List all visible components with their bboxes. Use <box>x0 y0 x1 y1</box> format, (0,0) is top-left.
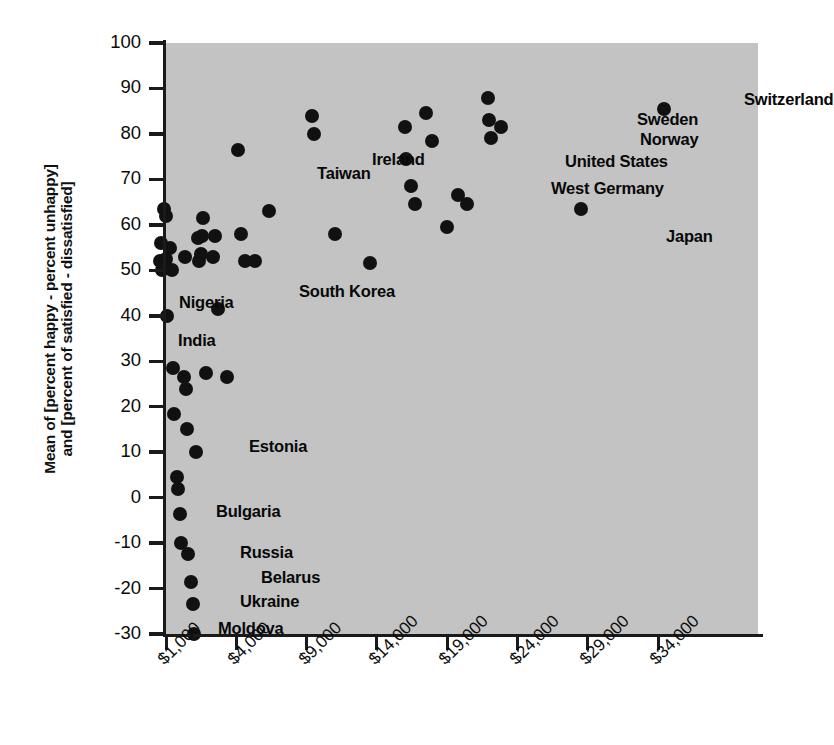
point-label: Norway <box>640 130 698 149</box>
y-tick-label: -30 <box>83 622 141 644</box>
point-label: Belarus <box>261 568 320 587</box>
data-point <box>460 197 474 211</box>
y-axis-line <box>163 40 166 637</box>
point-label: India <box>178 331 216 350</box>
y-tick-mark <box>149 587 164 591</box>
data-point <box>484 131 498 145</box>
y-tick-mark <box>149 360 164 364</box>
point-label: Ukraine <box>240 592 299 611</box>
data-point <box>398 120 412 134</box>
data-point <box>305 109 319 123</box>
y-tick-mark <box>149 223 164 227</box>
y-tick-label: 20 <box>83 395 141 417</box>
data-point <box>206 250 220 264</box>
data-point <box>167 407 181 421</box>
point-label: Nigeria <box>179 293 234 312</box>
y-axis-title-line1: Mean of [percent happy - percent unhappy… <box>41 164 58 474</box>
data-point <box>178 250 192 264</box>
data-point <box>494 120 508 134</box>
data-point <box>186 597 200 611</box>
point-label: Sweden <box>637 110 698 129</box>
data-point <box>307 127 321 141</box>
point-label: West Germany <box>551 179 664 198</box>
y-tick-mark <box>149 496 164 500</box>
data-point <box>328 227 342 241</box>
data-point <box>171 482 185 496</box>
y-tick-label: -20 <box>83 577 141 599</box>
data-point <box>195 229 209 243</box>
data-point <box>234 227 248 241</box>
y-tick-label: 80 <box>83 122 141 144</box>
y-tick-label: 60 <box>83 213 141 235</box>
point-label: Moldova <box>218 619 284 638</box>
data-point <box>425 134 439 148</box>
point-label: Ireland <box>372 150 425 169</box>
y-tick-label: 0 <box>83 486 141 508</box>
y-tick-mark <box>149 87 164 91</box>
data-point <box>180 422 194 436</box>
point-label: United States <box>565 152 668 171</box>
y-tick-mark <box>149 269 164 273</box>
y-tick-mark <box>149 132 164 136</box>
data-point <box>262 204 276 218</box>
point-label: South Korea <box>299 282 395 301</box>
data-point <box>404 179 418 193</box>
data-point <box>440 220 454 234</box>
y-tick-mark <box>149 632 164 636</box>
data-point <box>179 382 193 396</box>
data-point <box>220 370 234 384</box>
point-label: Estonia <box>249 437 307 456</box>
y-tick-label: 100 <box>83 31 141 53</box>
data-point <box>189 445 203 459</box>
data-point <box>173 507 187 521</box>
point-label: Taiwan <box>317 164 371 183</box>
point-label: Russia <box>240 543 293 562</box>
y-tick-label: 50 <box>83 258 141 280</box>
y-tick-mark <box>149 405 164 409</box>
data-point <box>196 211 210 225</box>
data-point <box>181 547 195 561</box>
data-point <box>184 575 198 589</box>
y-tick-label: 70 <box>83 167 141 189</box>
y-tick-mark <box>149 41 164 45</box>
data-point <box>231 143 245 157</box>
y-tick-mark <box>149 314 164 318</box>
y-tick-mark <box>149 541 164 545</box>
y-axis-title: Mean of [percent happy - percent unhappy… <box>35 39 81 599</box>
data-point <box>408 197 422 211</box>
y-axis-title-line2: and [percent of satisfied - dissatisfied… <box>58 181 75 456</box>
point-label: Bulgaria <box>216 502 280 521</box>
point-label: Switzerland <box>744 90 834 109</box>
y-tick-label: -10 <box>83 531 141 553</box>
y-tick-label: 40 <box>83 304 141 326</box>
y-tick-label: 30 <box>83 349 141 371</box>
data-point <box>248 254 262 268</box>
data-point <box>165 263 179 277</box>
data-point <box>574 202 588 216</box>
data-point <box>419 106 433 120</box>
data-point <box>199 366 213 380</box>
y-tick-label: 10 <box>83 440 141 462</box>
y-tick-mark <box>149 178 164 182</box>
y-tick-label: 90 <box>83 76 141 98</box>
point-label: Japan <box>666 227 713 246</box>
data-point <box>481 91 495 105</box>
data-point <box>208 229 222 243</box>
data-point <box>363 256 377 270</box>
y-tick-mark <box>149 450 164 454</box>
